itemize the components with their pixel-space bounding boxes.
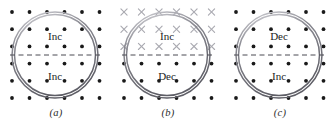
field-marker-dot — [122, 96, 126, 100]
figure-panel-a: Inc Inc (a) — [0, 0, 112, 130]
field-marker-dot — [322, 96, 326, 100]
field-marker-dot — [10, 10, 14, 14]
field-marker-dot — [252, 27, 256, 31]
figure-panel-c: Dec Inc (c) — [224, 0, 336, 130]
field-marker-dot — [98, 62, 102, 66]
field-marker-cross — [208, 26, 214, 32]
panel-a-caption: (a) — [0, 107, 112, 118]
field-marker-dot — [63, 62, 67, 66]
field-marker-dot — [322, 27, 326, 31]
field-marker-dot — [80, 96, 84, 100]
field-marker-dot — [210, 96, 214, 100]
field-marker-dot — [192, 96, 196, 100]
field-marker-cross — [208, 9, 214, 15]
field-marker-dot — [98, 96, 102, 100]
field-marker-dot — [98, 10, 102, 14]
panel-c-label-bottom: Inc — [272, 70, 286, 82]
panel-c-label-top: Dec — [270, 30, 288, 42]
field-marker-dot — [304, 79, 308, 83]
field-marker-dot — [80, 10, 84, 14]
panel-c-diagram: Dec Inc — [224, 0, 336, 112]
field-marker-cross — [138, 43, 144, 49]
field-marker-dot — [98, 27, 102, 31]
field-marker-dot — [252, 10, 256, 14]
field-marker-dot — [157, 62, 161, 66]
panel-b-stage: Inc Dec — [112, 0, 224, 112]
field-marker-dot — [28, 10, 32, 14]
field-marker-dot — [322, 10, 326, 14]
field-marker-dot — [304, 96, 308, 100]
panel-b-label-bottom: Dec — [158, 70, 176, 82]
field-marker-cross — [173, 43, 179, 49]
field-marker-dot — [10, 96, 14, 100]
field-marker-dot — [192, 79, 196, 83]
field-marker-dot — [175, 62, 179, 66]
field-marker-dot — [234, 96, 238, 100]
field-marker-dot — [252, 62, 256, 66]
field-marker-dot — [192, 62, 196, 66]
field-marker-dot — [287, 62, 291, 66]
field-marker-cross — [121, 26, 127, 32]
field-marker-dot — [304, 27, 308, 31]
field-marker-dot — [140, 62, 144, 66]
field-marker-dot — [80, 62, 84, 66]
field-marker-cross — [191, 43, 197, 49]
field-marker-dot — [122, 79, 126, 83]
field-marker-dot — [322, 45, 326, 49]
field-marker-dot — [304, 45, 308, 49]
field-marker-dot — [28, 96, 32, 100]
field-marker-dot — [269, 62, 273, 66]
field-marker-cross — [138, 9, 144, 15]
field-marker-dot — [80, 79, 84, 83]
panel-b-diagram: Inc Dec — [112, 0, 224, 112]
field-marker-dot — [45, 62, 49, 66]
field-marker-dot — [28, 79, 32, 83]
field-marker-dot — [80, 45, 84, 49]
field-marker-dot — [252, 96, 256, 100]
field-marker-dot — [63, 45, 67, 49]
panel-c-caption: (c) — [224, 107, 336, 118]
field-marker-dot — [28, 45, 32, 49]
panel-b-label-top: Inc — [160, 30, 174, 42]
panel-b-marker-field — [121, 9, 215, 100]
panel-a-stage: Inc Inc — [0, 0, 112, 112]
field-marker-dot — [63, 79, 67, 83]
field-marker-dot — [210, 79, 214, 83]
figure-container: Inc Inc (a) Inc Dec (b) Dec In — [0, 0, 336, 130]
field-marker-dot — [28, 62, 32, 66]
panel-a-label-bottom: Inc — [48, 70, 62, 82]
figure-panel-b: Inc Dec (b) — [112, 0, 224, 130]
field-marker-dot — [210, 62, 214, 66]
field-marker-dot — [252, 45, 256, 49]
field-marker-dot — [287, 45, 291, 49]
field-marker-dot — [98, 79, 102, 83]
field-marker-dot — [234, 10, 238, 14]
field-marker-dot — [322, 79, 326, 83]
field-marker-dot — [140, 79, 144, 83]
field-marker-dot — [10, 79, 14, 83]
panel-c-stage: Dec Inc — [224, 0, 336, 112]
field-marker-cross — [138, 26, 144, 32]
panel-b-caption: (b) — [112, 107, 224, 118]
field-marker-dot — [234, 27, 238, 31]
field-marker-dot — [98, 45, 102, 49]
field-marker-dot — [304, 10, 308, 14]
field-marker-dot — [287, 79, 291, 83]
field-marker-dot — [63, 27, 67, 31]
field-marker-cross — [173, 26, 179, 32]
field-marker-dot — [140, 96, 144, 100]
field-marker-cross — [121, 9, 127, 15]
field-marker-cross — [191, 9, 197, 15]
field-marker-dot — [322, 62, 326, 66]
field-marker-dot — [45, 45, 49, 49]
field-marker-dot — [304, 62, 308, 66]
field-marker-dot — [234, 79, 238, 83]
field-marker-dot — [10, 27, 14, 31]
field-marker-dot — [252, 79, 256, 83]
field-marker-cross — [156, 43, 162, 49]
field-marker-dot — [80, 27, 84, 31]
field-marker-dot — [28, 27, 32, 31]
panel-a-label-top: Inc — [48, 30, 62, 42]
field-marker-dot — [269, 45, 273, 49]
panel-a-diagram: Inc Inc — [0, 0, 112, 112]
